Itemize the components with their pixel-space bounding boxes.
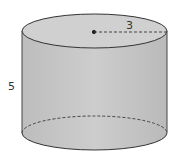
radius-label: 3 xyxy=(126,19,133,32)
height-label: 5 xyxy=(8,80,15,93)
cylinder-side xyxy=(22,31,167,150)
cylinder-diagram: 3 5 xyxy=(0,0,178,162)
